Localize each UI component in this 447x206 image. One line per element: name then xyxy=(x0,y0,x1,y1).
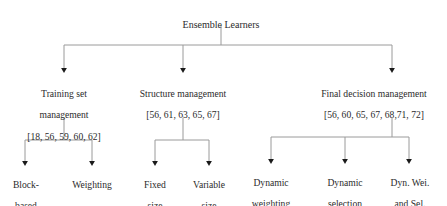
node-ensemble-learners: Ensemble Learners xyxy=(151,8,291,42)
node-block-based-line2: based xyxy=(0,201,52,206)
node-fixed-size: Fixed size xyxy=(130,169,180,206)
node-fixed-size-line1: Fixed xyxy=(130,180,180,191)
node-dynamic-weighting: Dynamic weighting xyxy=(238,167,304,206)
node-training-set-management-line1: Training set xyxy=(9,89,119,100)
node-dyn-wei-and-sel-line2: and Sel. xyxy=(379,199,441,206)
node-final-decision-management-refs: [56, 60, 65, 67, 68,71, 72] xyxy=(301,110,447,121)
node-dyn-wei-and-sel: Dyn. Wei. and Sel. xyxy=(379,167,441,206)
node-variable-size-line1: Variable xyxy=(182,180,236,191)
node-block-based: Block- based xyxy=(0,169,52,206)
node-structure-management-line1: Structure management xyxy=(120,89,246,100)
node-weighting-line1: Weighting xyxy=(62,180,122,191)
node-variable-size: Variable size xyxy=(182,169,236,206)
ensemble-learners-diagram: Ensemble Learners Training set managemen… xyxy=(0,0,447,206)
node-variable-size-line2: size xyxy=(182,201,236,206)
node-training-set-management: Training set management [18, 56, 59, 60,… xyxy=(9,78,119,153)
node-fixed-size-line2: size xyxy=(130,201,180,206)
node-final-decision-management: Final decision management [56, 60, 65, 6… xyxy=(301,78,447,132)
node-weighting: Weighting xyxy=(62,169,122,201)
node-training-set-management-line2: management xyxy=(9,110,119,121)
node-structure-management: Structure management [56, 61, 63, 65, 67… xyxy=(120,78,246,132)
node-dynamic-weighting-line2: weighting xyxy=(238,199,304,206)
node-dynamic-selection-line1: Dynamic xyxy=(313,178,377,189)
node-structure-management-refs: [56, 61, 63, 65, 67] xyxy=(120,110,246,121)
node-final-decision-management-line1: Final decision management xyxy=(301,89,447,100)
node-dynamic-weighting-line1: Dynamic xyxy=(238,178,304,189)
node-block-based-line1: Block- xyxy=(0,180,52,191)
node-dynamic-selection-line2: selection xyxy=(313,199,377,206)
node-dyn-wei-and-sel-line1: Dyn. Wei. xyxy=(379,178,441,189)
node-ensemble-learners-label: Ensemble Learners xyxy=(151,19,291,30)
node-dynamic-selection: Dynamic selection xyxy=(313,167,377,206)
node-training-set-management-refs: [18, 56, 59, 60, 62] xyxy=(9,132,119,143)
